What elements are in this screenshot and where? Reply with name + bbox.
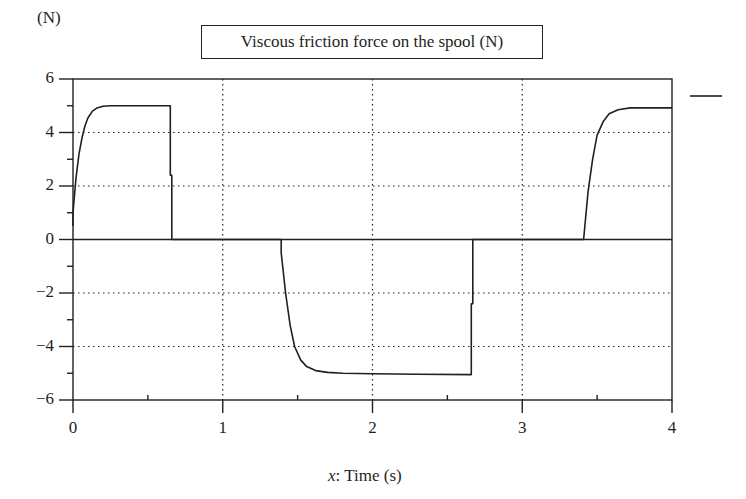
x-axis-label: x: Time (s) — [328, 466, 402, 486]
y-tick-label: −6 — [14, 389, 54, 409]
y-tick-label: 6 — [14, 68, 54, 88]
x-tick-label: 2 — [358, 418, 388, 438]
y-tick-label: −2 — [14, 282, 54, 302]
y-tick-label: 2 — [14, 175, 54, 195]
y-tick-label: 4 — [14, 122, 54, 142]
y-tick-label: −4 — [14, 336, 54, 356]
axes — [59, 79, 672, 413]
x-tick-label: 3 — [507, 418, 537, 438]
y-tick-label: 0 — [14, 229, 54, 249]
x-tick-label: 4 — [657, 418, 687, 438]
x-tick-label: 1 — [208, 418, 238, 438]
x-tick-label: 0 — [58, 418, 88, 438]
